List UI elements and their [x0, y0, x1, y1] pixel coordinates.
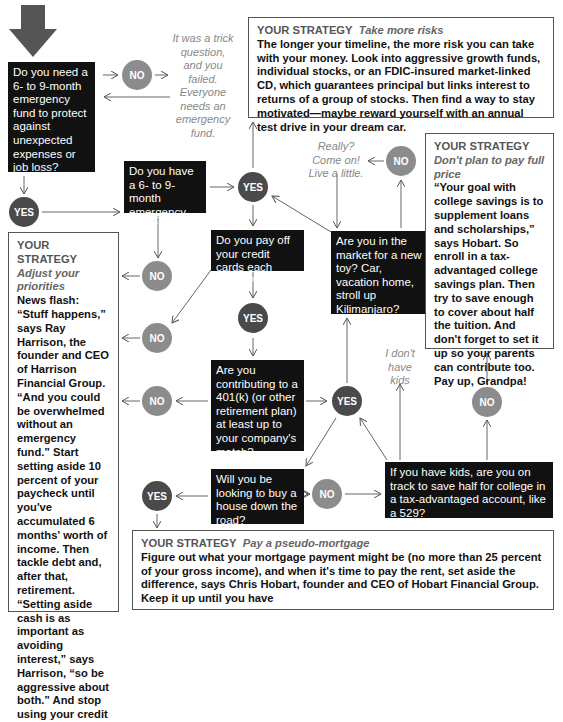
question-new-toy: Are you in the market for a new toy? Car… [331, 231, 431, 314]
question-buy-house: Will you be looking to buy a house down … [211, 469, 304, 524]
aside-really: Really? Come on! Live a little. [305, 140, 367, 181]
answer-yes-credit-cards: YES [238, 303, 268, 333]
strategy-title: Don't plan to pay full price [434, 154, 544, 180]
strategy-adjust-priorities: YOUR STRATEGY Adjust your priorities New… [8, 232, 119, 612]
strategy-label: YOUR STRATEGY [141, 537, 237, 549]
strategy-title: Take more risks [359, 24, 444, 36]
down-arrow-icon [9, 5, 57, 57]
answer-yes-need-fund: YES [9, 197, 39, 227]
strategy-take-more-risks: YOUR STRATEGY Take more risks The longer… [248, 17, 554, 118]
answer-no-house: NO [312, 479, 342, 509]
answer-yes-have-fund: YES [238, 172, 268, 202]
aside-trick-question: It was a trick question, and you failed.… [170, 32, 236, 140]
answer-no-401k: NO [142, 386, 172, 416]
strategy-body: Figure out what your mortgage payment mi… [141, 551, 541, 604]
strategy-label: YOUR STRATEGY [17, 239, 77, 265]
answer-no-have-fund: NO [142, 261, 172, 291]
answer-yes-house: YES [142, 481, 172, 511]
answer-no-need-fund: NO [122, 60, 152, 90]
question-pay-credit-cards: Do you pay off your credit cards each mo… [211, 230, 304, 271]
strategy-body: The longer your timeline, the more risk … [257, 38, 540, 133]
answer-yes-401k: YES [332, 386, 362, 416]
strategy-body: News flash: “Stuff happens,” says Ray Ha… [17, 294, 109, 720]
answer-no-new-toy: NO [386, 146, 416, 176]
question-need-emergency-fund: Do you need a 6- to 9-month emergency fu… [8, 62, 95, 172]
strategy-pseudo-mortgage: YOUR STRATEGY Pay a pseudo-mortgage Figu… [132, 530, 554, 610]
strategy-title: Pay a pseudo-mortgage [243, 537, 370, 549]
question-have-emergency-fund: Do you have a 6- to 9-month emergency fu… [124, 161, 206, 213]
answer-no-credit-cards: NO [142, 323, 172, 353]
question-kids-college: If you have kids, are you on track to sa… [385, 462, 553, 518]
question-401k: Are you contributing to a 401(k) (or oth… [211, 360, 304, 451]
strategy-title: Adjust your priorities [17, 267, 79, 293]
strategy-label: YOUR STRATEGY [434, 140, 530, 152]
aside-no-kids: I don't have kids [382, 347, 418, 388]
answer-no-kids-college: NO [472, 387, 502, 417]
strategy-label: YOUR STRATEGY [257, 24, 353, 36]
strategy-body: “Your goal with college savings is to su… [434, 181, 543, 386]
strategy-college: YOUR STRATEGY Don't plan to pay full pri… [425, 133, 554, 349]
